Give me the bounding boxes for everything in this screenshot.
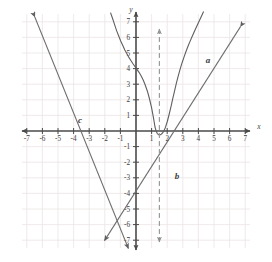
x-tick-label: -2 [102, 135, 108, 143]
coordinate-plane-graph: -7 -6 -5 -4 -3 -2 -1 1 2 3 4 5 6 7 1 2 3… [0, 0, 272, 262]
x-tick-label: 4 [197, 135, 201, 143]
y-tick-label: -2 [124, 159, 130, 167]
x-tick-label: -7 [24, 135, 30, 143]
x-tick-label: -6 [39, 135, 45, 143]
axes [22, 12, 250, 250]
line-c [35, 17, 129, 249]
x-tick-label: 7 [243, 135, 247, 143]
y-tick-label: -4 [124, 190, 130, 198]
y-tick-label: 4 [126, 65, 130, 73]
y-tick-label: -3 [124, 174, 130, 182]
x-tick-label: 3 [181, 135, 185, 143]
graph-canvas: -7 -6 -5 -4 -3 -2 -1 1 2 3 4 5 6 7 1 2 3… [0, 0, 272, 262]
y-tick-label: 3 [126, 81, 130, 89]
parabola-curve-a [111, 12, 204, 135]
y-tick-label: 6 [126, 34, 130, 42]
x-tick-label: 1 [150, 135, 154, 143]
y-axis-negative-tick-labels: -1 -2 -3 -4 -5 -6 -7 [124, 143, 130, 245]
x-tick-label: 5 [212, 135, 216, 143]
y-tick-label: 2 [126, 96, 130, 104]
line-b [105, 27, 241, 241]
y-tick-label: -6 [124, 221, 130, 229]
y-tick-label: 1 [126, 112, 130, 120]
y-tick-label: -1 [124, 143, 130, 151]
curve-label-b: b [175, 171, 180, 181]
x-tick-label: -5 [55, 135, 61, 143]
x-tick-label: -4 [71, 135, 77, 143]
y-tick-label: -5 [124, 206, 130, 214]
x-axis-label: x [256, 122, 261, 131]
curve-label-a: a [206, 55, 211, 65]
x-tick-label: -1 [117, 135, 123, 143]
x-axis-negative-tick-labels: -7 -6 -5 -4 -3 -2 -1 [24, 135, 124, 143]
y-axis-positive-tick-labels: 1 2 3 4 5 6 7 [126, 18, 130, 120]
x-axis-positive-tick-labels: 1 2 3 4 5 6 7 [150, 135, 248, 143]
y-tick-label: 7 [126, 18, 130, 26]
curve-label-c: c [78, 115, 82, 125]
x-tick-label: -3 [86, 135, 92, 143]
x-tick-label: 6 [228, 135, 232, 143]
y-axis-label: y [128, 5, 133, 14]
